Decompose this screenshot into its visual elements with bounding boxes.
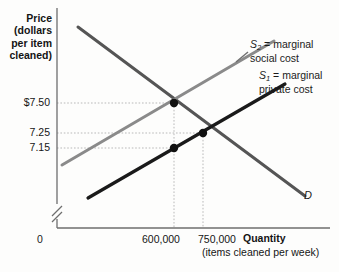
origin-label: 0 (37, 233, 43, 245)
marker-dots (170, 99, 207, 152)
curve-label-d: D (304, 189, 312, 202)
curve-label-s2-symbol: S (250, 38, 257, 50)
y-axis-title: Price (dollars per item cleaned) (0, 12, 52, 62)
y-axis-title-line3: per item (11, 37, 52, 49)
y-axis-title-line1: Price (26, 12, 52, 24)
curve-label-s2: S2 = marginal social cost (250, 38, 313, 65)
x-axis-title: Quantity (243, 232, 286, 244)
marker-dot-600k-715 (170, 144, 178, 152)
x-tick-label-750000: 750,000 (198, 233, 236, 245)
curve-label-s1-symbol: S (259, 69, 266, 81)
y-tick-label-7-25: 7.25 (0, 126, 50, 138)
curve-s2-marginal-social-cost (62, 41, 274, 165)
x-axis-subtitle: (items cleaned per week) (202, 246, 319, 258)
curve-label-s2-rest: = marginal (261, 38, 313, 50)
curve-label-s1-rest: = marginal (270, 69, 322, 81)
curve-label-s2-line2: social cost (250, 52, 313, 64)
marker-dot-750k-725 (199, 129, 207, 137)
marker-dot-600k-750 (170, 99, 178, 107)
x-tick-label-600000: 600,000 (142, 233, 180, 245)
guide-lines-vertical (174, 103, 203, 228)
y-tick-label-7-15: 7.15 (0, 141, 50, 153)
y-axis-title-line4: cleaned) (9, 49, 52, 61)
supply-demand-chart: Price (dollars per item cleaned) $7.50 7… (0, 0, 339, 272)
curve-s1-marginal-private-cost (88, 84, 285, 198)
curve-label-s1: S1 = marginal private cost (259, 69, 322, 96)
y-axis-title-line2: (dollars (14, 24, 52, 36)
y-tick-label-7-50: $7.50 (0, 96, 50, 108)
curve-label-s1-line2: private cost (259, 83, 322, 95)
